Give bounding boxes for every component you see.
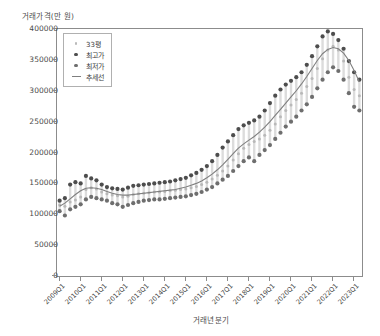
data-point-low [263, 148, 267, 152]
data-point-low [231, 169, 235, 173]
data-point-low [278, 131, 282, 135]
data-point-high [100, 183, 104, 187]
y-tick-mark [52, 244, 56, 245]
data-point-low [189, 193, 193, 197]
legend-item-0: 33평 [69, 38, 104, 49]
data-point-high [205, 164, 209, 168]
x-tick-mark [185, 277, 186, 281]
data-point-low [236, 164, 240, 168]
data-point-low [184, 194, 188, 198]
data-point-high [226, 139, 230, 143]
legend-item-2: 최저가 [69, 60, 104, 71]
x-tick-mark [227, 277, 228, 281]
data-point-high [115, 187, 119, 191]
legend-dot-swatch [75, 42, 78, 45]
data-point-high [284, 82, 288, 86]
data-point-high [178, 177, 182, 181]
data-point-low [142, 199, 146, 203]
data-point-high [79, 181, 83, 185]
data-point-low [326, 70, 330, 74]
data-point-low [147, 198, 151, 202]
data-point-low [315, 86, 319, 90]
y-tick-mark [52, 28, 56, 29]
data-point-mean [79, 195, 82, 198]
data-point-low [126, 203, 130, 207]
data-point-low [89, 195, 93, 199]
data-point-low [105, 199, 109, 203]
data-point-high [89, 176, 93, 180]
data-point-low [289, 120, 293, 124]
data-point-low [63, 213, 67, 217]
data-point-mean [258, 137, 261, 140]
data-point-high [173, 178, 177, 182]
data-point-low [168, 196, 172, 200]
legend-dot-swatch [74, 64, 77, 67]
data-point-mean [205, 181, 208, 184]
data-point-low [299, 108, 303, 112]
data-point-mean [358, 94, 361, 97]
data-point-mean [342, 60, 345, 63]
chart-legend: 33평최고가최저가추세선 [63, 33, 112, 87]
data-point-low [257, 153, 261, 157]
y-tick-mark [52, 59, 56, 60]
data-point-mean [195, 185, 198, 188]
data-point-low [320, 78, 324, 82]
data-point-mean [300, 92, 303, 95]
data-point-high [163, 180, 167, 184]
data-point-high [305, 63, 309, 67]
data-point-high [210, 159, 214, 163]
data-point-high [73, 180, 77, 184]
data-point-mean [237, 152, 240, 155]
data-point-mean [63, 205, 66, 208]
data-point-mean [105, 192, 108, 195]
x-tick-mark [143, 277, 144, 281]
data-point-low [178, 195, 182, 199]
data-point-low [310, 95, 314, 99]
data-point-low [121, 205, 125, 209]
data-point-mean [242, 147, 245, 150]
data-point-high [200, 168, 204, 172]
y-tick-mark [52, 90, 56, 91]
data-point-mean [316, 67, 319, 70]
data-point-high [341, 47, 345, 51]
data-point-high [215, 153, 219, 157]
data-point-high [242, 123, 246, 127]
data-point-low [347, 91, 351, 95]
data-point-high [231, 133, 235, 137]
data-point-high [326, 29, 330, 33]
data-point-mean [295, 98, 298, 101]
data-point-low [131, 201, 135, 205]
data-point-high [142, 183, 146, 187]
x-tick-mark [248, 277, 249, 281]
data-point-high [157, 181, 161, 185]
chart-figure: 거래가격(만 원) 050000100000150000200000250000… [0, 0, 380, 336]
data-point-high [310, 54, 314, 58]
legend-swatch-dot [69, 64, 83, 67]
data-point-low [163, 197, 167, 201]
data-point-low [305, 102, 309, 106]
data-point-mean [69, 200, 72, 203]
x-tick-mark [59, 277, 60, 281]
data-point-high [168, 179, 172, 183]
x-tick-mark [311, 277, 312, 281]
data-point-high [315, 44, 319, 48]
legend-label: 최저가 [86, 61, 104, 71]
legend-item-3: 추세선 [69, 71, 104, 82]
legend-item-1: 최고가 [69, 49, 104, 60]
x-tick-mark [164, 277, 165, 281]
data-point-high [110, 186, 114, 190]
data-point-low [110, 201, 114, 205]
data-point-high [263, 108, 267, 112]
y-tick-mark [52, 275, 56, 276]
data-point-high [236, 127, 240, 131]
data-point-low [247, 155, 251, 159]
data-point-high [58, 199, 62, 203]
x-tick-mark [80, 277, 81, 281]
data-point-low [284, 124, 288, 128]
x-tick-mark [206, 277, 207, 281]
legend-dot-swatch [74, 53, 77, 56]
data-point-low [194, 192, 198, 196]
data-point-mean [321, 57, 324, 60]
data-point-mean [211, 178, 214, 181]
x-axis-title: 거래년분기 [193, 314, 229, 325]
